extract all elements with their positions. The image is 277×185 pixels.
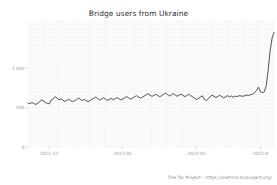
chart-container: Bridge users from Ukraine 05001 000 2021… [0, 0, 277, 185]
x-axis-tick-label: 2022-02 [187, 151, 206, 156]
footer-credit: The Tor Project - https://metrics.torpro… [168, 175, 272, 180]
x-axis-tick-label: 2022-01 [114, 151, 133, 156]
y-axis-tick-label: 500 [16, 105, 25, 110]
x-axis-tick-label: 2021-12 [40, 151, 59, 156]
x-axis-tick-label: 2022-0 [253, 151, 269, 156]
y-axis-ticks: 05001 000 [12, 66, 28, 150]
y-axis-tick-label: 0 [22, 145, 25, 150]
y-axis-tick-label: 1 000 [12, 66, 25, 71]
chart-plot-area: 05001 000 2021-122022-012022-022022-0 [0, 0, 277, 185]
x-axis-ticks: 2021-122022-012022-022022-0 [40, 147, 269, 156]
